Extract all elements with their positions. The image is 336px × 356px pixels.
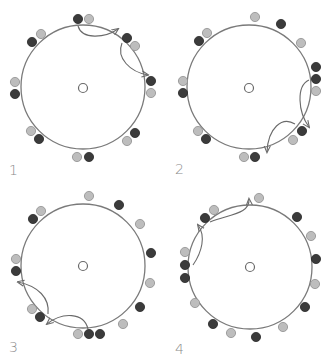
- dark-particle: [200, 213, 209, 222]
- light-particle: [296, 38, 305, 47]
- light-particle: [145, 278, 154, 287]
- light-particle: [26, 126, 35, 135]
- dark-particle: [34, 134, 43, 143]
- light-particle: [250, 12, 259, 21]
- panel-label: 1: [9, 162, 18, 178]
- panel-1: 1: [9, 14, 156, 178]
- dark-particle: [311, 74, 320, 83]
- dark-particle: [130, 128, 139, 137]
- dark-particle: [122, 33, 131, 42]
- dark-particle: [35, 312, 44, 321]
- light-particle: [135, 219, 144, 228]
- dark-particle: [84, 152, 93, 161]
- light-particle: [36, 29, 45, 38]
- dark-particle: [135, 302, 144, 311]
- dark-particle: [146, 248, 155, 257]
- dark-particle: [276, 19, 285, 28]
- center-point: [79, 84, 88, 93]
- panel-3: 3: [9, 191, 156, 355]
- hop-arrow: [78, 26, 118, 36]
- dark-particle: [250, 152, 259, 161]
- dark-particle: [178, 88, 187, 97]
- light-particle: [146, 88, 155, 97]
- panel-2: 2: [175, 12, 321, 177]
- light-particle: [178, 76, 187, 85]
- dark-particle: [114, 200, 123, 209]
- light-particle: [306, 231, 315, 240]
- light-particle: [72, 152, 81, 161]
- dark-particle: [95, 329, 104, 338]
- dark-particle: [194, 36, 203, 45]
- light-particle: [118, 319, 127, 328]
- light-particle: [278, 322, 287, 331]
- dark-particle: [27, 37, 36, 46]
- dark-particle: [84, 329, 93, 338]
- dark-particle: [251, 332, 260, 341]
- dark-particle: [11, 266, 20, 275]
- panel-label: 4: [175, 341, 184, 356]
- center-point: [245, 84, 254, 93]
- dark-particle: [10, 89, 19, 98]
- light-particle: [202, 28, 211, 37]
- panel-label: 3: [9, 339, 18, 355]
- light-particle: [10, 77, 19, 86]
- dark-particle: [146, 76, 155, 85]
- dark-particle: [311, 62, 320, 71]
- dark-particle: [28, 214, 37, 223]
- light-particle: [190, 298, 199, 307]
- light-particle: [209, 205, 218, 214]
- light-particle: [310, 279, 319, 288]
- light-particle: [73, 329, 82, 338]
- dark-particle: [180, 273, 189, 282]
- panel-4: 4: [175, 193, 321, 356]
- light-particle: [130, 41, 139, 50]
- light-particle: [84, 14, 93, 23]
- dark-particle: [201, 134, 210, 143]
- light-particle: [239, 152, 248, 161]
- light-particle: [122, 136, 131, 145]
- light-particle: [288, 135, 297, 144]
- diagram-canvas: 1 2: [0, 0, 336, 356]
- dark-particle: [311, 254, 320, 263]
- light-particle: [311, 86, 320, 95]
- dark-particle: [180, 260, 189, 269]
- panel-label: 2: [175, 161, 184, 177]
- light-particle: [180, 247, 189, 256]
- dark-particle: [297, 126, 306, 135]
- center-point: [246, 263, 255, 272]
- light-particle: [193, 126, 202, 135]
- hop-arrow: [47, 316, 88, 329]
- light-particle: [226, 328, 235, 337]
- light-particle: [11, 254, 20, 263]
- hop-arrow: [193, 225, 202, 265]
- dark-particle: [73, 14, 82, 23]
- light-particle: [254, 193, 263, 202]
- dark-particle: [292, 212, 301, 221]
- light-particle: [84, 191, 93, 200]
- light-particle: [27, 304, 36, 313]
- dark-particle: [208, 319, 217, 328]
- center-point: [79, 262, 88, 271]
- light-particle: [36, 206, 45, 215]
- dark-particle: [300, 302, 309, 311]
